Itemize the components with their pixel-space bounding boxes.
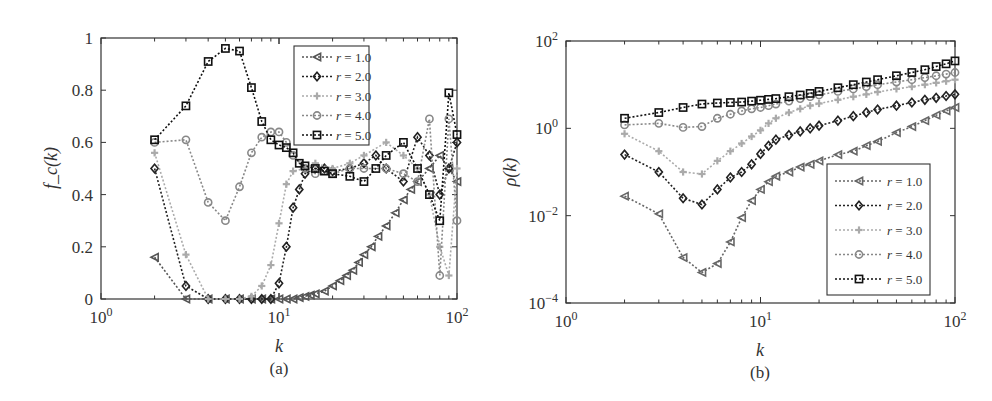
legend-label: r = 5.0 (887, 272, 922, 287)
panel-b-x-axis-label: k (756, 340, 765, 360)
legend-label: r = 1.0 (336, 50, 371, 65)
y-tick-label: 102 (535, 29, 558, 51)
panel-a-caption: (a) (270, 359, 289, 378)
y-tick-label: 0 (85, 290, 94, 309)
panel-a-legend: r = 1.0r = 2.0r = 3.0r = 4.0r = 5.0 (294, 46, 371, 145)
x-tick-label: 100 (90, 305, 113, 327)
panel-a-y-tick-labels: 00.20.40.60.81 (72, 29, 94, 309)
y-tick-label: 0.4 (72, 186, 94, 205)
legend-label: r = 4.0 (887, 247, 922, 262)
panel-a-plot-frame (101, 38, 457, 299)
panel-a-fc-vs-k: 00.20.40.60.81 100101102 k f_c(k) (a) r … (41, 29, 469, 378)
x-tick-label: 102 (446, 305, 469, 327)
x-tick-label: 102 (944, 309, 967, 331)
panel-b-y-tick-labels: 10−410−2100102 (528, 29, 558, 313)
panel-a-y-axis-label: f_c(k) (41, 147, 62, 189)
legend-label: r = 1.0 (887, 174, 922, 189)
y-tick-label: 0.8 (72, 81, 93, 100)
y-tick-label: 0.6 (72, 133, 93, 152)
y-tick-label: 100 (535, 116, 558, 138)
y-tick-label: 10−4 (528, 291, 558, 313)
panel-b-caption: (b) (750, 363, 770, 382)
y-tick-label: 1 (85, 29, 94, 48)
x-tick-label: 100 (555, 309, 578, 331)
panel-b-rho-vs-k: 10−410−2100102 100101102 k ρ(k) (b) r = … (500, 29, 967, 382)
y-tick-label: 10−2 (528, 204, 558, 226)
panel-b-x-tick-labels: 100101102 (555, 309, 967, 331)
legend-label: r = 4.0 (336, 108, 371, 123)
legend-label: r = 5.0 (336, 128, 371, 143)
figure-canvas: 00.20.40.60.81 100101102 k f_c(k) (a) r … (0, 0, 992, 401)
legend-label: r = 3.0 (336, 89, 371, 104)
legend-label: r = 3.0 (887, 223, 922, 238)
x-tick-label: 101 (268, 305, 291, 327)
panel-b-legend: r = 1.0r = 2.0r = 3.0r = 4.0r = 5.0 (827, 164, 930, 295)
panel-b-y-axis-label: ρ(k) (500, 158, 521, 188)
y-tick-label: 0.2 (72, 238, 93, 257)
legend-label: r = 2.0 (887, 198, 922, 213)
panel-a-x-axis-label: k (275, 336, 284, 356)
legend-label: r = 2.0 (336, 69, 371, 84)
x-tick-label: 101 (749, 309, 772, 331)
panel-a-x-tick-labels: 100101102 (90, 305, 469, 327)
